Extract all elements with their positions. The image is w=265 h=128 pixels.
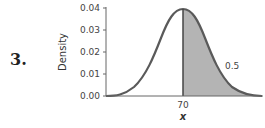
y-tick-label: 0.00	[80, 91, 100, 101]
y-axis-title: Density	[57, 33, 68, 71]
y-tick-label: 0.03	[80, 25, 100, 35]
y-tick-label: 0.02	[80, 47, 100, 57]
density-chart: 0.04 0.03 0.02 0.01 0.00 Density 70 x 0.…	[0, 0, 265, 128]
y-tick-label: 0.04	[80, 3, 100, 13]
x-tick-label: 70	[177, 100, 189, 110]
area-annotation: 0.5	[225, 61, 239, 71]
shaded-area	[183, 9, 262, 96]
x-axis-title: x	[179, 111, 187, 122]
y-tick-label: 0.01	[80, 69, 100, 79]
